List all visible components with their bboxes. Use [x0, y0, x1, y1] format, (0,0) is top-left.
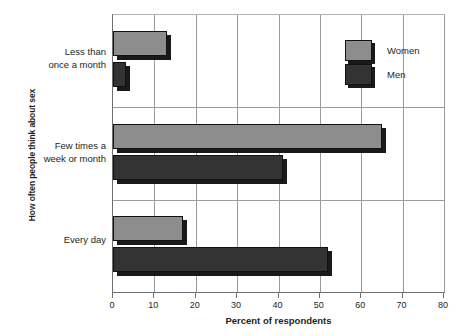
- legend-label-men: Men: [387, 69, 405, 80]
- x-tick-label-0: 0: [97, 300, 127, 310]
- category-label-less-than-once-a-month: Less than once a month: [14, 46, 106, 71]
- bar-men-1: [113, 155, 287, 184]
- bar-men-0: [113, 62, 130, 91]
- x-tick-label-60: 60: [345, 300, 375, 310]
- x-tick-40: [278, 293, 279, 298]
- gridline-80: [444, 15, 445, 292]
- x-tick-60: [360, 293, 361, 298]
- x-tick-10: [153, 293, 154, 298]
- category-label-line1: Less than: [14, 46, 106, 59]
- bar-women-2: [113, 216, 187, 245]
- x-tick-label-80: 80: [428, 300, 458, 310]
- legend-label-women: Women: [387, 45, 420, 56]
- x-tick-label-50: 50: [304, 300, 334, 310]
- category-label-line2: week or month: [14, 153, 106, 166]
- bar-chart: How often people think about sex Less th…: [0, 0, 468, 336]
- category-label-line1: Few times a: [14, 140, 106, 153]
- bar-men-2: [113, 247, 332, 276]
- x-tick-label-10: 10: [138, 300, 168, 310]
- gridline-70: [403, 15, 404, 292]
- legend-swatch-men: [345, 64, 375, 88]
- category-label-line1: Every day: [14, 234, 106, 247]
- x-tick-0: [112, 293, 113, 298]
- x-tick-50: [319, 293, 320, 298]
- category-separator: [113, 200, 444, 201]
- legend-swatch-women: [345, 40, 375, 64]
- x-tick-label-30: 30: [221, 300, 251, 310]
- x-tick-80: [443, 293, 444, 298]
- x-tick-label-70: 70: [387, 300, 417, 310]
- x-tick-30: [236, 293, 237, 298]
- category-label-every-day: Every day: [14, 234, 106, 247]
- bar-women-0: [113, 31, 171, 60]
- category-label-few-times-a-week-or-month: Few times a week or month: [14, 140, 106, 165]
- x-axis-title: Percent of respondents: [112, 315, 445, 326]
- category-label-line2: once a month: [14, 59, 106, 72]
- category-separator: [113, 107, 444, 108]
- x-tick-20: [195, 293, 196, 298]
- x-tick-70: [402, 293, 403, 298]
- x-tick-label-40: 40: [263, 300, 293, 310]
- bar-women-1: [113, 124, 386, 153]
- x-tick-label-20: 20: [180, 300, 210, 310]
